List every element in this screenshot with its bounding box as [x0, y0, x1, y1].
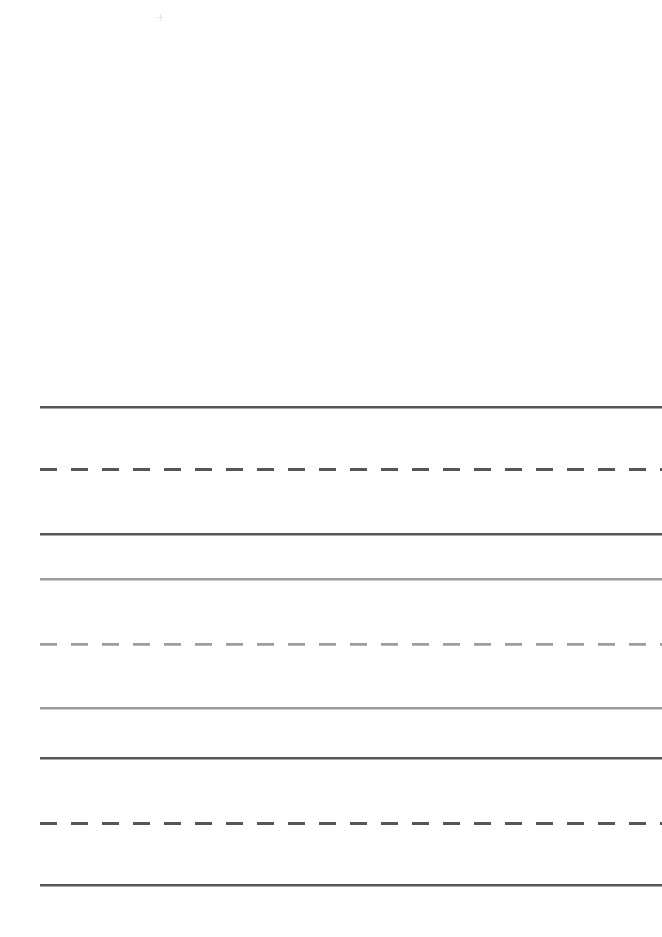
- chart-canvas: [0, 0, 662, 937]
- line-series-svg: [0, 0, 662, 937]
